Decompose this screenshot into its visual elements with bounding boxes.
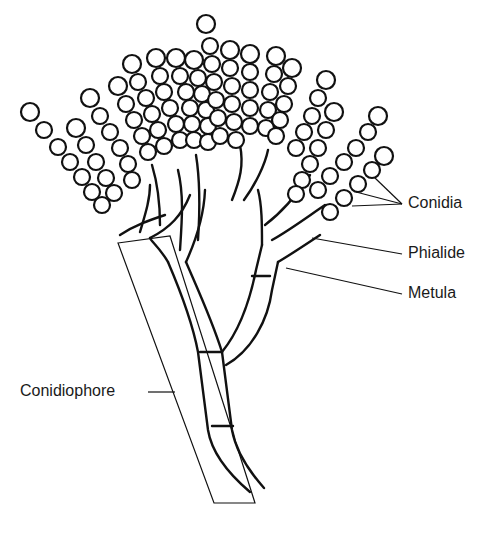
label-metula: Metula <box>408 284 456 302</box>
conidia-chains <box>21 15 393 220</box>
metulae <box>120 145 325 262</box>
label-conidia: Conidia <box>408 194 462 212</box>
conidiophore-bracket <box>118 236 255 503</box>
label-conidiophore: Conidiophore <box>20 382 115 400</box>
penicillium-diagram <box>0 0 503 546</box>
label-phialide: Phialide <box>408 244 465 262</box>
